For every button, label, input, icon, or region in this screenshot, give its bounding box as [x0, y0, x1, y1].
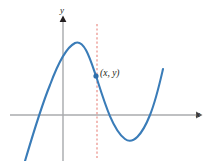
point-coordinate-label: (x, y): [100, 69, 120, 79]
graph-figure: y x (x, y): [0, 0, 207, 161]
marked-point-dot: [93, 73, 98, 78]
function-curve: [25, 43, 163, 161]
y-axis-label: y: [60, 6, 64, 15]
graph-canvas: [0, 0, 207, 161]
x-axis-label: x: [196, 110, 200, 119]
y-axis-arrowhead: [60, 16, 67, 23]
